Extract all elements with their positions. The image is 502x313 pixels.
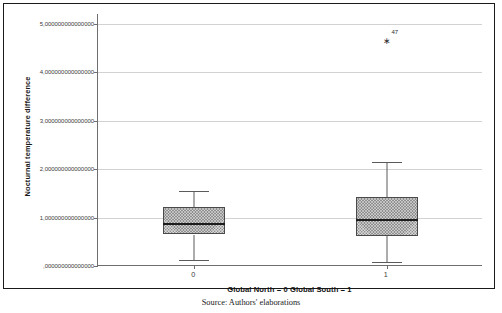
y-axis-tick-mark [94,218,98,219]
median-line [163,223,225,225]
y-axis-tick-label: 2,000000000000000 [22,166,94,172]
gridline [98,24,482,25]
whisker-cap-lower [179,260,209,261]
box-iqr[interactable] [163,207,225,235]
y-axis-tick-mark [94,169,98,170]
whisker-lower [194,235,195,261]
whisker-cap-lower [372,262,402,263]
x-axis-tick-mark [387,265,388,269]
y-axis-tick-mark [94,24,98,25]
y-axis-tick-mark [94,121,98,122]
median-line [356,219,418,221]
x-axis-title: Global North = 0 Global South = 1 [97,285,482,294]
y-axis-tick-label: 5,000000000000000 [22,21,94,27]
whisker-upper [386,162,387,197]
y-axis-tick-label: 1,000000000000000 [22,215,94,221]
x-axis-tick-mark [194,265,195,269]
y-axis-tick-mark [94,72,98,73]
whisker-lower [386,236,387,262]
box-iqr[interactable] [356,197,418,236]
y-axis-tick-mark [94,266,98,267]
y-axis-tick-label: 4,000000000000000 [22,69,94,75]
x-axis-tick-label: 0 [191,270,195,279]
figure-caption: Source: Authors' elaborations [0,298,502,307]
gridline [98,218,482,219]
outlier-marker[interactable]: ∗ [383,37,391,46]
whisker-cap-upper [372,162,402,163]
gridline [98,169,482,170]
outlier-label: 47 [391,29,398,35]
y-axis-tick-label: ,000000000000000 [22,263,94,269]
whisker-cap-upper [179,191,209,192]
gridline [98,72,482,73]
y-axis-tick-label: 3,000000000000000 [22,118,94,124]
y-axis-tick-label-group: ,0000000000000001,0000000000000002,00000… [22,4,94,288]
chart-figure-frame: Nocturnal temperature difference ,000000… [3,3,495,289]
gridline [98,121,482,122]
x-axis-tick-label: 1 [384,270,388,279]
whisker-upper [194,191,195,207]
plot-area: ∗47 [97,14,482,266]
